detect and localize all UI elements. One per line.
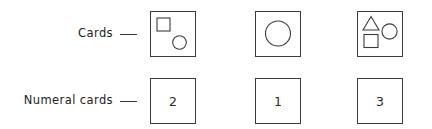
numeral-cards-row-label-text: Numeral cards xyxy=(24,93,113,107)
card-3 xyxy=(357,11,403,57)
cards-row-label: Cards xyxy=(78,26,137,40)
card-2-shapes xyxy=(256,12,300,56)
circle-shape xyxy=(173,36,187,50)
cards-row: Cards xyxy=(0,8,432,64)
cards-row-label-text: Cards xyxy=(78,26,113,40)
numeral-card-3: 3 xyxy=(357,78,403,124)
circle-shape xyxy=(266,21,291,46)
square-shape xyxy=(364,35,378,48)
card-2 xyxy=(255,11,301,57)
numeral-card-1-value: 2 xyxy=(151,79,195,123)
numeral-cards-row-label: Numeral cards xyxy=(24,93,137,107)
arrow-right-icon xyxy=(120,101,137,102)
card-3-shapes xyxy=(358,12,402,56)
arrow-right-icon xyxy=(120,34,137,35)
card-1-shapes xyxy=(151,12,195,56)
numeral-card-3-value: 3 xyxy=(358,79,402,123)
circle-shape xyxy=(382,24,397,39)
triangle-shape xyxy=(363,17,379,31)
numeral-card-1: 2 xyxy=(150,78,196,124)
square-shape xyxy=(157,18,170,31)
numeral-card-2: 1 xyxy=(255,78,301,124)
numeral-card-2-value: 1 xyxy=(256,79,300,123)
cards-and-numeral-cards-figure: Cards Numeral cards xyxy=(0,0,432,129)
numeral-cards-row: Numeral cards 2 1 3 xyxy=(0,75,432,129)
card-1 xyxy=(150,11,196,57)
